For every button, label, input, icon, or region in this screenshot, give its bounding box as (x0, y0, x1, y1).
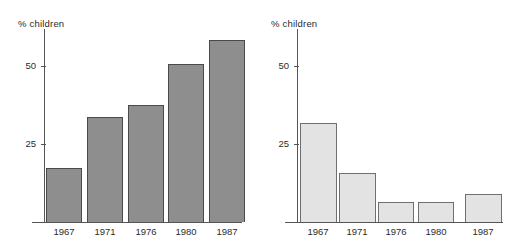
y-tick-mark-right-50 (294, 66, 299, 67)
y-tick-mark-left-50 (41, 66, 46, 67)
y-tick-label-right-50: 50 (267, 60, 289, 71)
bar-left-1987 (209, 40, 245, 222)
y-tick-label-right-25: 25 (267, 138, 289, 149)
chart-panel-right: % children 50 25 1967 1971 1976 1980 198… (258, 0, 515, 249)
bar-left-1980 (168, 64, 204, 222)
x-tick-label-left-1980: 1980 (164, 226, 208, 237)
x-tick-label-right-1976: 1976 (374, 226, 418, 237)
x-tick-label-left-1967: 1967 (42, 226, 86, 237)
bar-right-1967 (300, 123, 337, 222)
bar-left-1976 (128, 105, 164, 222)
x-tick-label-left-1987: 1987 (205, 226, 249, 237)
bar-right-1980 (418, 202, 454, 222)
y-axis-line-left (44, 29, 45, 222)
bar-left-1971 (87, 117, 123, 222)
x-tick-label-right-1980: 1980 (414, 226, 458, 237)
bar-right-1971 (339, 173, 376, 222)
x-axis-line-right (285, 222, 503, 223)
y-axis-line-right (297, 29, 298, 222)
x-axis-line-left (32, 222, 242, 223)
y-tick-label-left-25: 25 (14, 138, 36, 149)
bar-right-1976 (378, 202, 414, 222)
x-tick-label-right-1987: 1987 (461, 226, 505, 237)
y-axis-title-right: % children (271, 18, 317, 29)
bar-right-1987 (465, 194, 502, 222)
x-tick-label-right-1971: 1971 (335, 226, 379, 237)
y-tick-mark-right-25 (294, 144, 299, 145)
y-tick-mark-left-25 (41, 144, 46, 145)
x-tick-label-left-1976: 1976 (124, 226, 168, 237)
y-axis-title-left: % children (18, 18, 64, 29)
x-tick-label-right-1967: 1967 (296, 226, 340, 237)
y-tick-label-left-50: 50 (14, 60, 36, 71)
two-panel-bar-chart-figure: % children 50 25 1967 1971 1976 1980 198… (0, 0, 515, 249)
x-tick-label-left-1971: 1971 (83, 226, 127, 237)
chart-panel-left: % children 50 25 1967 1971 1976 1980 198… (0, 0, 258, 249)
bar-left-1967 (46, 168, 82, 222)
